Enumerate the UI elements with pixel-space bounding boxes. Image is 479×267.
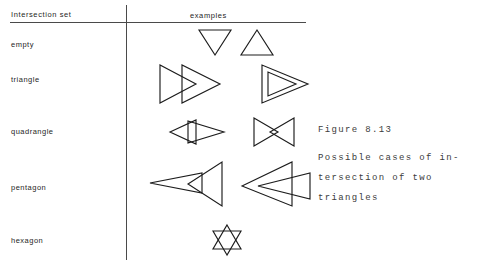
narrow-wedge-into-triangle-icon [148, 160, 224, 208]
row-label-hexagon: hexagon [11, 236, 43, 245]
example-empty-upward-triangle [240, 28, 274, 56]
example-triangle-two-overlapping-right-triangles [158, 63, 222, 105]
example-quadrangle-bowtie [252, 116, 296, 148]
column-divider-vertical-rule [126, 5, 127, 260]
upward-triangle-icon [240, 28, 274, 56]
figure-caption-line-2: tersection of two [318, 168, 473, 188]
example-pentagon-wedge-overlap [240, 160, 312, 208]
example-pentagon-narrow-wedge [148, 160, 224, 208]
figure-page: Intersection set examples empty triangle… [0, 0, 479, 267]
two-overlapping-right-triangles-icon [158, 63, 222, 105]
figure-caption: Figure 8.13 Possible cases of in- tersec… [318, 120, 473, 208]
row-label-triangle: triangle [11, 75, 40, 84]
header-horizontal-rule [10, 22, 306, 23]
example-triangle-nested-triangles [260, 63, 310, 105]
column-header-intersection-set: Intersection set [11, 10, 71, 19]
nested-triangles-icon [260, 63, 310, 105]
arrow-overlap-quadrangle-icon [168, 118, 226, 146]
row-label-quadrangle: quadrangle [11, 127, 54, 136]
example-hexagon-hexagram-star [211, 224, 243, 256]
hexagram-star-icon [211, 224, 243, 256]
bowtie-quadrangle-icon [252, 116, 296, 148]
column-header-examples: examples [190, 11, 227, 20]
figure-caption-title: Figure 8.13 [318, 120, 473, 140]
example-quadrangle-arrow-overlap [168, 118, 226, 146]
example-empty-downward-triangle [198, 28, 232, 56]
figure-caption-line-1: Possible cases of in- [318, 148, 473, 168]
downward-triangle-icon [198, 28, 232, 56]
figure-caption-line-3: triangles [318, 188, 473, 208]
row-label-empty: empty [11, 40, 34, 49]
wedge-overlapping-triangle-icon [240, 160, 312, 208]
row-label-pentagon: pentagon [11, 183, 46, 192]
